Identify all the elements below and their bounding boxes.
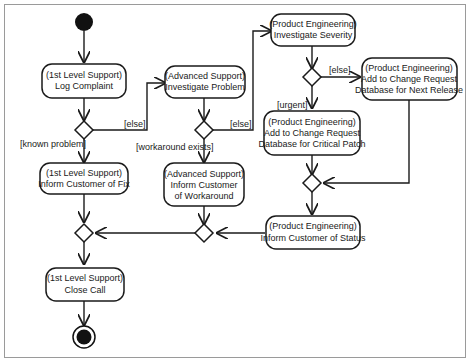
action-inform-status: (Product Engineering) Inform Customer of… <box>260 216 366 249</box>
merge-change-request <box>303 174 321 192</box>
svg-text:Investigate Severity: Investigate Severity <box>274 30 353 40</box>
decision-urgent <box>303 68 321 86</box>
svg-text:(Advanced Support): (Advanced Support) <box>165 71 245 81</box>
svg-text:(Product Engineering): (Product Engineering) <box>268 117 356 127</box>
merge-all <box>75 224 93 242</box>
guard-else-1: [else] <box>124 119 146 129</box>
decision-known-problem <box>75 121 93 139</box>
final-node <box>73 326 95 348</box>
svg-text:Inform Customer: Inform Customer <box>170 180 237 190</box>
action-investigate-problem: (Advanced Support) Investigate Problem <box>165 66 245 98</box>
svg-text:Investigate Problem: Investigate Problem <box>165 82 245 92</box>
svg-text:(Product Engineering): (Product Engineering) <box>269 221 357 231</box>
svg-text:(1st Level Support): (1st Level Support) <box>46 70 122 80</box>
guard-else-3: [else] <box>329 65 351 75</box>
svg-text:of Workaround: of Workaround <box>175 191 234 201</box>
svg-text:Add to Change Request: Add to Change Request <box>361 74 458 84</box>
svg-text:(Product Engineering): (Product Engineering) <box>365 63 453 73</box>
action-add-critical-patch: (Product Engineering) Add to Change Requ… <box>258 111 365 155</box>
guard-urgent: [urgent] <box>277 100 308 110</box>
action-inform-workaround: (Advanced Support) Inform Customer of Wo… <box>164 163 244 206</box>
action-inform-fix: (1st Level Support) Inform Customer of F… <box>38 163 130 194</box>
svg-text:Inform Customer of Status: Inform Customer of Status <box>260 233 366 243</box>
svg-text:(Advanced Support): (Advanced Support) <box>164 169 244 179</box>
activity-diagram: (1st Level Support) Log Complaint (Advan… <box>0 0 470 363</box>
svg-text:Database for Next Release: Database for Next Release <box>355 85 463 95</box>
guard-known-problem: [known problem] <box>20 139 86 149</box>
svg-text:(Product Engineering): (Product Engineering) <box>269 19 357 29</box>
initial-node <box>75 13 93 31</box>
svg-text:Inform Customer of Fix: Inform Customer of Fix <box>38 179 130 189</box>
svg-text:Close Call: Close Call <box>64 285 105 295</box>
svg-text:Database for Critical Patch: Database for Critical Patch <box>258 139 365 149</box>
action-investigate-severity: (Product Engineering) Investigate Severi… <box>269 14 357 46</box>
guard-else-2: [else] <box>230 119 252 129</box>
svg-text:(1st Level Support): (1st Level Support) <box>46 168 122 178</box>
decision-workaround <box>195 121 213 139</box>
action-add-next-release: (Product Engineering) Add to Change Requ… <box>355 58 463 100</box>
action-log-complaint: (1st Level Support) Log Complaint <box>42 64 126 98</box>
svg-text:(1st Level Support): (1st Level Support) <box>47 273 123 283</box>
guard-workaround-exists: [workaround exists] <box>136 142 214 152</box>
action-close-call: (1st Level Support) Close Call <box>46 268 124 301</box>
svg-text:Add to Change Request: Add to Change Request <box>264 128 361 138</box>
svg-text:Log Complaint: Log Complaint <box>55 81 114 91</box>
merge-workaround-status <box>195 224 213 242</box>
